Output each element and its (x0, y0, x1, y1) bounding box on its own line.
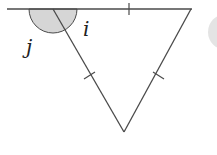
angle-label-j: j (22, 35, 32, 59)
geometry-diagram: j i (0, 0, 217, 155)
triangle-right-side (124, 9, 191, 132)
partial-circle-decoration (208, 14, 217, 50)
angle-label-i: i (83, 17, 89, 41)
angle-arc-shading (29, 9, 77, 33)
